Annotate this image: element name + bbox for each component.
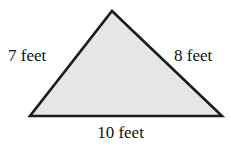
left-side-length-label: 7 feet [8, 47, 46, 64]
right-side-length-label: 8 feet [174, 47, 212, 64]
bottom-side-length-label: 10 feet [0, 124, 231, 141]
triangle-figure: 7 feet 8 feet 10 feet [0, 0, 231, 150]
